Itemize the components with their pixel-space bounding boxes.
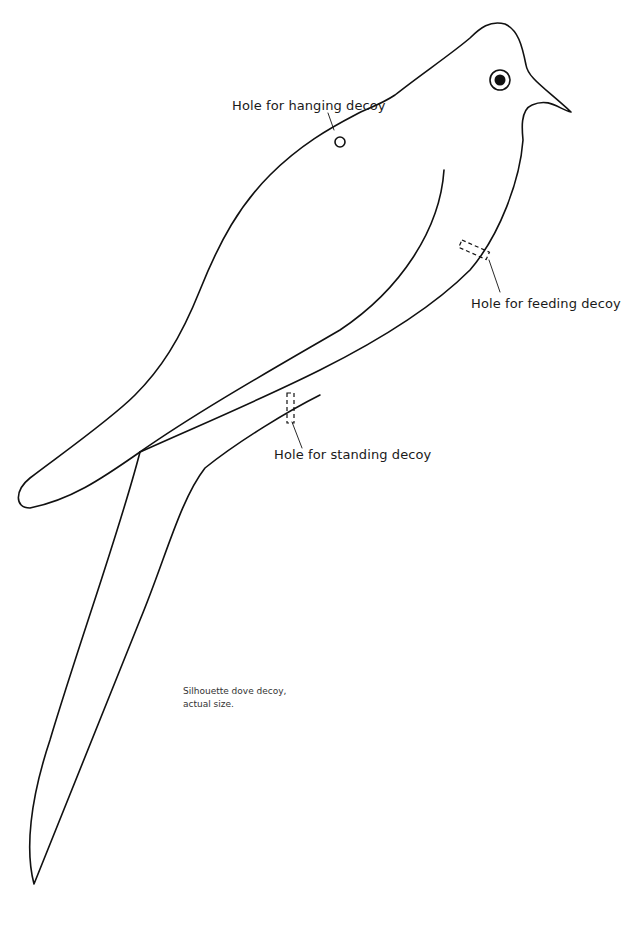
feeding-hole <box>459 240 490 260</box>
eye-pupil <box>495 75 506 86</box>
tail-outline <box>30 395 320 884</box>
caption-line-1: Silhouette dove decoy, <box>183 685 286 698</box>
hanging-hole <box>335 137 345 147</box>
standing-hole <box>287 393 294 423</box>
body-outline <box>18 23 571 508</box>
caption-line-2: actual size. <box>183 698 286 711</box>
standing-leader <box>292 422 302 448</box>
label-standing-hole: Hole for standing decoy <box>274 447 431 462</box>
label-hanging-hole: Hole for hanging decoy <box>232 98 386 113</box>
label-feeding-hole: Hole for feeding decoy <box>471 296 621 311</box>
figure-caption: Silhouette dove decoy, actual size. <box>183 685 286 711</box>
feeding-leader <box>489 260 500 292</box>
